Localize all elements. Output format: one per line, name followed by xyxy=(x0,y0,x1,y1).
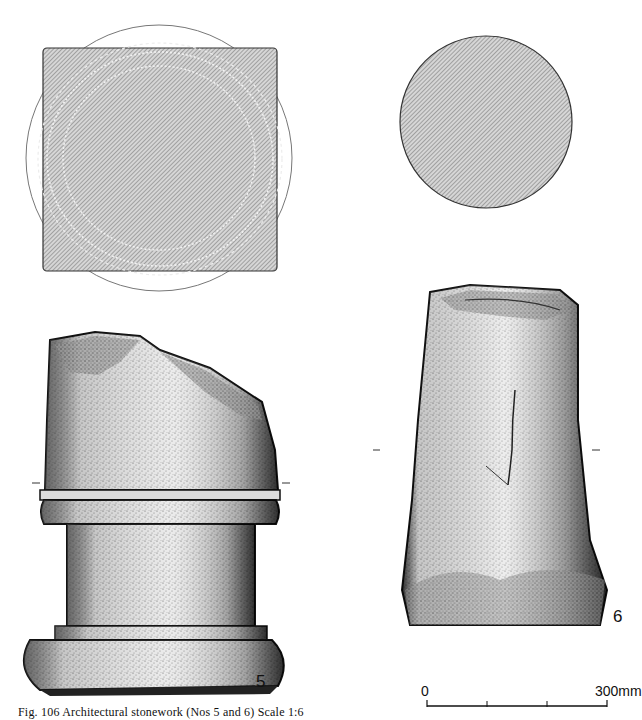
plan-view-5 xyxy=(26,25,292,291)
elevation-5 xyxy=(24,332,290,696)
scale-end-label: 300mm xyxy=(595,683,642,699)
plan-view-6 xyxy=(400,36,572,208)
elevation-6 xyxy=(373,285,607,625)
scale-start-label: 0 xyxy=(421,683,429,699)
scale-bar xyxy=(427,700,607,707)
object-label-5: 5 xyxy=(256,672,265,692)
object-label-6: 6 xyxy=(613,607,622,627)
figure-caption: Fig. 106 Architectural stonework (Nos 5 … xyxy=(18,705,304,720)
